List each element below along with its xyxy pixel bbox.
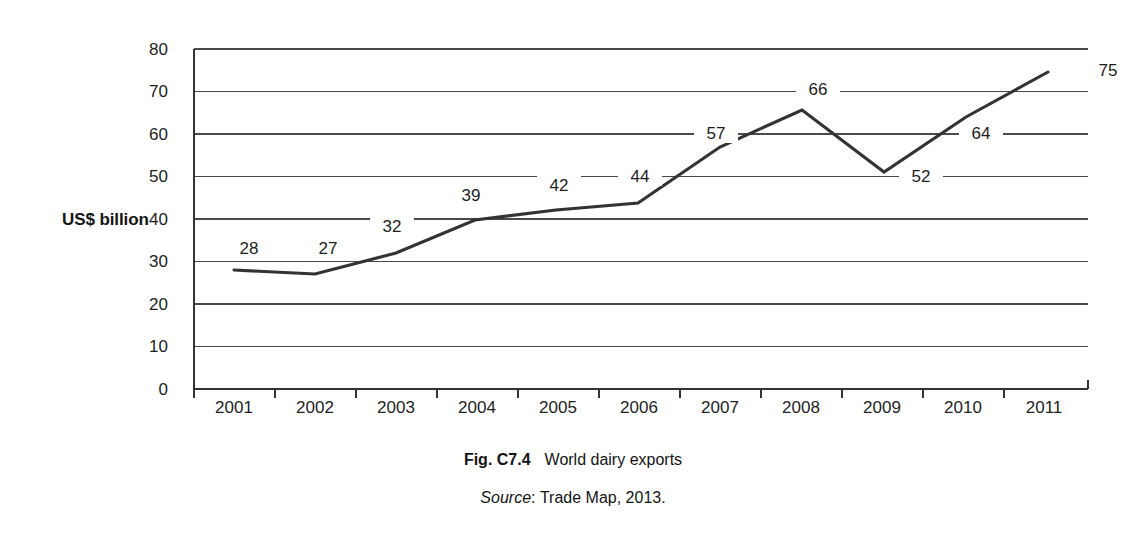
gridlines [194, 49, 1088, 347]
x-tick-label-2010: 2010 [928, 398, 998, 418]
figure-caption: Fig. C7.4World dairy exports [0, 451, 1146, 469]
figure-number: Fig. C7.4 [464, 451, 531, 468]
figure-source: Source: Trade Map, 2013. [0, 489, 1146, 507]
x-tick-label-2008: 2008 [766, 398, 836, 418]
x-tick-label-2004: 2004 [442, 398, 512, 418]
data-label-2005: 42 [537, 176, 581, 195]
source-word: Source [480, 489, 531, 506]
figure-title: World dairy exports [545, 451, 683, 468]
source-colon: : [531, 489, 540, 506]
data-label-2004: 39 [449, 186, 493, 205]
x-tick-label-2005: 2005 [523, 398, 593, 418]
data-label-2007: 57 [694, 124, 738, 143]
x-tick-label-2002: 2002 [280, 398, 350, 418]
x-tick-marks [194, 389, 1004, 398]
source-value: Trade Map, 2013. [540, 489, 666, 506]
data-label-2008: 66 [796, 80, 840, 99]
data-label-2003: 32 [370, 217, 414, 236]
x-tick-label-2007: 2007 [685, 398, 755, 418]
figure-world-dairy-exports: US$ billion 80 70 60 50 40 30 20 10 0 [0, 0, 1146, 540]
data-label-2011: 75 [1086, 61, 1130, 80]
data-label-2001: 28 [227, 239, 271, 258]
data-label-2010: 64 [959, 124, 1003, 143]
x-tick-label-2003: 2003 [361, 398, 431, 418]
x-tick-label-2011: 2011 [1009, 398, 1079, 418]
data-label-2002: 27 [306, 239, 350, 258]
data-label-2009: 52 [899, 167, 943, 186]
x-tick-label-2006: 2006 [604, 398, 674, 418]
x-tick-label-2001: 2001 [199, 398, 269, 418]
data-label-2006: 44 [618, 167, 662, 186]
x-tick-label-2009: 2009 [847, 398, 917, 418]
